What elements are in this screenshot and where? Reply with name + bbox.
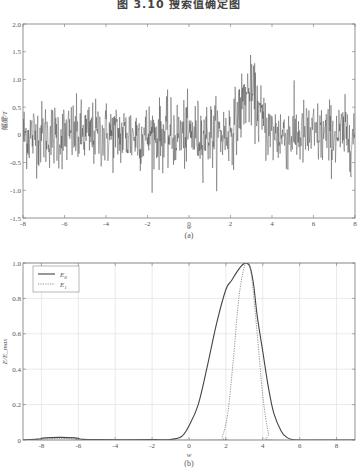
y-tick-label: 0 — [18, 131, 22, 139]
x-axis-label: w — [187, 451, 192, 459]
y-tick-label: 0.4 — [12, 366, 21, 374]
y-axis-label: E/E_max — [1, 338, 9, 366]
y-tick-label: 1.0 — [12, 76, 21, 84]
x-tick-label: -8 — [39, 442, 45, 450]
chart-a: -8-6-4-202468-1.5-1.0-0.500.51.01.52.0w幅… — [1, 21, 357, 241]
x-tick-label: 2 — [224, 442, 228, 450]
x-tick-label: 6 — [312, 220, 316, 228]
x-tick-label: -4 — [112, 442, 118, 450]
x-tick-label: 8 — [335, 442, 339, 450]
y-tick-label: -0.5 — [10, 159, 22, 167]
series-noisy-signal — [23, 55, 355, 193]
x-tick-label: 0 — [187, 442, 191, 450]
x-tick-label: -6 — [62, 220, 68, 228]
y-tick-label: 0 — [18, 437, 22, 445]
legend: E0E1 — [33, 266, 79, 292]
y-tick-label: 1.0 — [12, 260, 21, 268]
x-tick-label: -2 — [145, 220, 151, 228]
x-tick-label: 4 — [270, 220, 274, 228]
x-tick-label: -6 — [75, 442, 81, 450]
y-tick-label: 0.6 — [12, 330, 21, 338]
x-tick-label: -2 — [149, 442, 155, 450]
x-tick-label: 8 — [353, 220, 357, 228]
y-tick-label: 2.0 — [12, 21, 21, 29]
y-tick-label: -1.0 — [10, 187, 22, 195]
y-tick-label: 1.5 — [12, 48, 21, 56]
y-tick-label: 0.8 — [12, 295, 21, 303]
subfigure-caption: (b) — [184, 459, 194, 468]
subfigure-caption: (a) — [185, 231, 194, 240]
x-axis-label: w — [187, 223, 192, 231]
y-tick-label: 0.5 — [12, 104, 21, 112]
plot-area — [23, 55, 355, 193]
figure-canvas: -8-6-4-202468-1.5-1.0-0.500.51.01.52.0w幅… — [0, 0, 358, 472]
x-tick-label: 2 — [229, 220, 233, 228]
chart-b: -8-6-4-20246800.20.40.60.81.0wE/E_max(b)… — [1, 260, 355, 469]
x-tick-label: 4 — [261, 442, 265, 450]
x-tick-label: 6 — [298, 442, 302, 450]
y-axis-label: 幅度/T — [1, 110, 9, 131]
y-tick-label: 0.2 — [12, 401, 21, 409]
x-tick-label: -4 — [103, 220, 109, 228]
y-tick-label: -1.5 — [10, 215, 22, 223]
x-tick-label: -8 — [20, 220, 26, 228]
